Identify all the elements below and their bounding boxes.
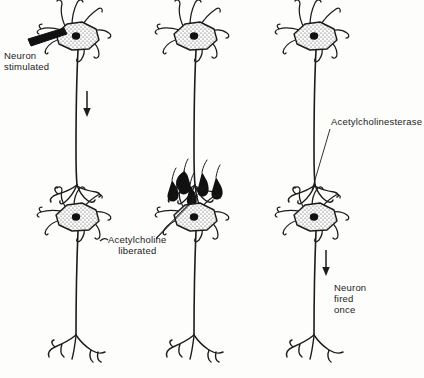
nucleus-icon xyxy=(72,213,80,220)
neuron-synapse-diagram: Neuron stimulated Acetylcholine liberate… xyxy=(0,0,424,378)
label-neuron-fired-once: Neuron fired once xyxy=(334,282,366,315)
axon-upper-3 xyxy=(314,50,316,185)
axon-terminals-lower-3 xyxy=(286,335,343,362)
axon-lower-2 xyxy=(194,231,196,335)
leader-line-acetylcholine-tick xyxy=(100,239,108,241)
axon-upper-1 xyxy=(76,50,78,185)
label-neuron-stimulated: Neuron stimulated xyxy=(4,50,49,72)
lower-neuron-3 xyxy=(275,187,349,362)
nucleus-icon xyxy=(310,213,318,220)
diagram-canvas xyxy=(0,0,424,378)
column-2-release xyxy=(155,0,229,362)
axon-lower-3 xyxy=(314,231,316,335)
axon-terminals-lower-1 xyxy=(48,335,105,362)
upper-neuron-1 xyxy=(37,0,111,204)
nucleus-icon xyxy=(72,32,80,39)
nucleus-icon xyxy=(190,32,198,39)
lower-neuron-2 xyxy=(155,187,229,362)
axon-upper-2 xyxy=(194,50,196,185)
lower-neuron-1 xyxy=(37,187,111,362)
label-acetylcholinesterase: Acetylcholinesterase xyxy=(331,116,422,127)
arrow-down-icon-1 xyxy=(83,91,90,117)
upper-neuron-2 xyxy=(155,0,229,204)
upper-neuron-3 xyxy=(275,0,349,204)
nucleus-icon xyxy=(310,32,318,39)
nucleus-icon xyxy=(190,213,198,220)
axon-terminals-lower-2 xyxy=(166,335,223,362)
axon-lower-1 xyxy=(76,231,78,335)
arrow-down-icon-3 xyxy=(322,250,329,276)
label-acetylcholine-liberated: Acetylcholine liberated xyxy=(108,234,167,256)
